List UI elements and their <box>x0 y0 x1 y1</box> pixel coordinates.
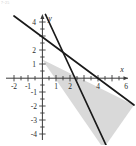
graph-figure: 7-25 <box>0 0 136 145</box>
y-tick-label: -1 <box>31 88 37 97</box>
x-tick-label: 4 <box>96 82 100 91</box>
y-axis-label: y <box>47 14 52 23</box>
x-tick-label: -2 <box>11 82 17 91</box>
y-tick-label: 2 <box>32 46 36 55</box>
y-tick-label: -4 <box>31 130 37 139</box>
y-axis <box>39 14 45 140</box>
y-tick-label: 1 <box>32 60 36 69</box>
y-tick-label: -2 <box>31 102 37 111</box>
y-tick-label: -3 <box>31 116 37 125</box>
y-tick-label: 4 <box>32 18 36 27</box>
x-tick-label: 6 <box>124 82 128 91</box>
x-tick-label: 1 <box>54 82 58 91</box>
x-tick-label: 2 <box>68 82 72 91</box>
coordinate-plane-svg: -2 -1 1 2 4 6 4 2 1 -1 -2 -3 -4 x y <box>0 0 136 145</box>
line-2 <box>46 15 107 146</box>
x-axis-label: x <box>119 65 124 74</box>
